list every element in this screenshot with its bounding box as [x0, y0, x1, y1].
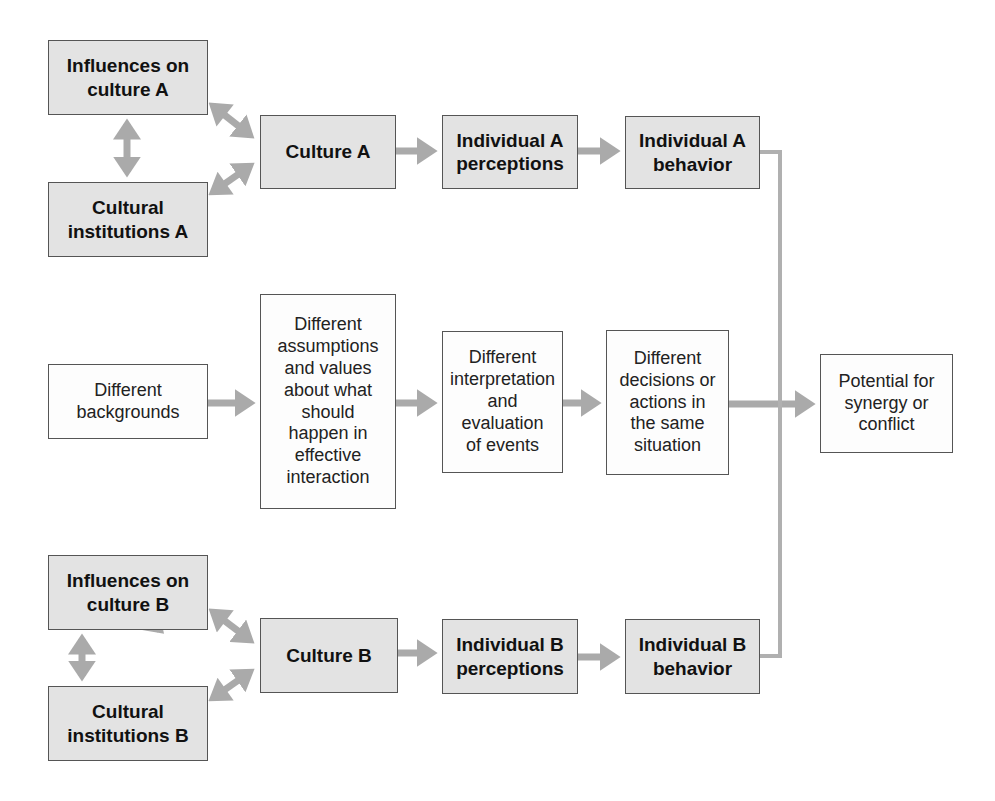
- box-individual-a-behavior: Individual A behavior: [625, 116, 760, 189]
- box-label: Individual A behavior: [639, 129, 746, 175]
- box-culture-b: Culture B: [260, 618, 398, 693]
- box-label: Individual A perceptions: [456, 129, 564, 175]
- box-label: Influences on culture A: [67, 54, 189, 100]
- box-different-assumptions: Different assumptions and values about w…: [260, 294, 396, 509]
- box-individual-b-behavior: Individual B behavior: [625, 619, 760, 694]
- box-label: Different assumptions and values about w…: [277, 314, 378, 490]
- arrow-influencesB-cultureB: [213, 612, 250, 640]
- box-label: Cultural institutions A: [68, 196, 189, 242]
- box-potential-synergy-conflict: Potential for synergy or conflict: [820, 354, 953, 453]
- box-different-decisions: Different decisions or actions in the sa…: [606, 330, 729, 475]
- box-influences-culture-a: Influences on culture A: [48, 40, 208, 115]
- box-individual-b-perceptions: Individual B perceptions: [442, 619, 578, 694]
- box-different-backgrounds: Different backgrounds: [48, 364, 208, 439]
- arrow-institutionsB-cultureB: [213, 672, 250, 698]
- box-label: Culture B: [286, 644, 372, 667]
- box-label: Potential for synergy or conflict: [838, 371, 934, 437]
- box-individual-a-perceptions: Individual A perceptions: [442, 115, 578, 189]
- box-label: Different interpretation and evaluation …: [450, 347, 555, 457]
- box-influences-culture-b: Influences on culture B: [48, 555, 208, 630]
- box-label: Different decisions or actions in the sa…: [619, 348, 715, 458]
- box-label: Culture A: [286, 140, 371, 163]
- box-label: Individual B behavior: [639, 633, 747, 679]
- box-cultural-institutions-a: Cultural institutions A: [48, 182, 208, 257]
- box-label: Individual B perceptions: [456, 633, 564, 679]
- arrow-influencesA-cultureA: [213, 106, 250, 135]
- box-cultural-institutions-b: Cultural institutions B: [48, 686, 208, 761]
- box-different-interpretation: Different interpretation and evaluation …: [442, 331, 563, 473]
- box-label: Cultural institutions B: [67, 700, 188, 746]
- box-culture-a: Culture A: [260, 115, 396, 189]
- box-label: Different backgrounds: [76, 380, 179, 424]
- box-label: Influences on culture B: [67, 569, 189, 615]
- arrow-institutionsA-cultureA: [213, 166, 250, 192]
